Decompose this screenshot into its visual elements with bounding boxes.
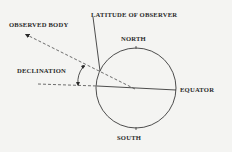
- label-latitude-of-observer: LATITUDE OF OBSERVER: [91, 12, 177, 19]
- observed-body-direction-line: [27, 35, 135, 89]
- label-south: SOUTH: [117, 135, 141, 142]
- latitude-of-observer-line: [93, 17, 100, 71]
- label-declination: DECLINATION: [17, 68, 66, 75]
- label-north: NORTH: [121, 36, 146, 43]
- equator-line: [97, 86, 176, 90]
- declination-arc: [78, 67, 83, 84]
- equator-plane-extension: [38, 84, 97, 86]
- celestial-declination-diagram: OBSERVED BODY LATITUDE OF OBSERVER NORTH…: [0, 0, 232, 152]
- label-observed-body: OBSERVED BODY: [9, 22, 68, 29]
- label-equator: EQUATOR: [180, 87, 214, 94]
